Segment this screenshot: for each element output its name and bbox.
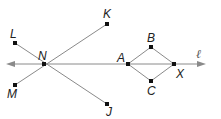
label-A: A <box>116 51 125 65</box>
label-N: N <box>38 49 47 63</box>
label-line-l: ℓ <box>196 47 201 61</box>
point-L <box>13 41 17 45</box>
geometry-diagram: N K J L M A B C X ℓ <box>0 0 221 119</box>
segment-MK <box>15 24 107 85</box>
point-X <box>172 62 176 66</box>
label-J: J <box>105 105 113 119</box>
point-B <box>149 45 153 49</box>
label-L: L <box>10 27 17 41</box>
right-arrow-icon <box>197 61 206 67</box>
label-C: C <box>147 84 156 98</box>
point-A <box>126 62 130 66</box>
label-B: B <box>147 31 155 45</box>
label-X: X <box>175 67 185 81</box>
label-K: K <box>103 7 112 21</box>
segment-LJ <box>15 43 107 104</box>
point-C <box>149 79 153 83</box>
point-K <box>105 22 109 26</box>
left-arrow-icon <box>6 61 15 67</box>
label-M: M <box>7 87 17 101</box>
